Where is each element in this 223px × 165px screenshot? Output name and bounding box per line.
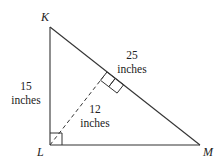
measure-altitude-unit: inches [80, 117, 110, 129]
vertex-label-M: M [202, 145, 214, 159]
measure-KM-unit: inches [117, 63, 147, 75]
vertex-label-L: L [36, 145, 44, 159]
measure-KM-value: 25 [126, 49, 138, 61]
vertex-label-K: K [40, 10, 50, 24]
measure-KL-unit: inches [11, 94, 41, 106]
triangle-diagram: K L M 15 inches 25 inches 12 inches [0, 0, 223, 165]
side-KM-hypotenuse [50, 27, 200, 145]
measure-altitude-value: 12 [89, 103, 101, 115]
measure-KL-value: 15 [20, 80, 32, 92]
